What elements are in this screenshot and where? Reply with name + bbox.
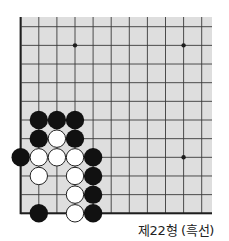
white-stone — [48, 149, 65, 166]
black-stone — [84, 185, 102, 203]
white-stone — [48, 130, 65, 147]
white-stone — [66, 186, 83, 203]
black-stone — [48, 111, 66, 129]
white-stone — [30, 149, 47, 166]
black-stone — [84, 167, 102, 185]
white-stone — [30, 167, 47, 184]
black-stone — [84, 148, 102, 166]
black-stone — [66, 111, 84, 129]
star-point — [73, 43, 77, 47]
black-stone — [30, 204, 48, 222]
white-stone — [66, 149, 83, 166]
star-point — [181, 43, 185, 47]
star-point — [181, 155, 185, 159]
black-stone — [84, 204, 102, 222]
white-stone — [66, 205, 83, 222]
black-stone — [66, 129, 84, 147]
black-stone — [12, 148, 30, 166]
problem-caption: 제22형 (흑선) — [132, 222, 214, 240]
black-stone — [30, 111, 48, 129]
black-stone — [30, 129, 48, 147]
white-stone — [66, 167, 83, 184]
go-board — [0, 0, 229, 241]
